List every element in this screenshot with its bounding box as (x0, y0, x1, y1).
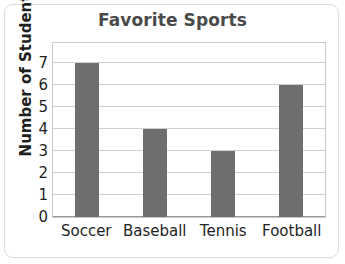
y-tick-label: 1 (26, 188, 48, 203)
bar (279, 85, 303, 217)
x-axis-tick-labels: SoccerBaseballTennisFootball (52, 222, 326, 240)
bar-slot (121, 43, 189, 217)
x-tick-label: Baseball (121, 222, 190, 240)
x-tick-label: Football (258, 222, 327, 240)
plot-area (52, 42, 326, 218)
bar-series (53, 43, 325, 217)
bar (211, 151, 235, 217)
y-tick-label: 4 (26, 122, 48, 137)
bar-slot (257, 43, 325, 217)
y-axis-tick-labels: 01234567 (24, 42, 48, 218)
x-tick-label: Tennis (189, 222, 258, 240)
x-tick-label: Soccer (52, 222, 121, 240)
y-tick-label: 6 (26, 78, 48, 93)
bar-slot (53, 43, 121, 217)
y-tick-label: 3 (26, 144, 48, 159)
bar (75, 63, 99, 217)
y-tick-label: 7 (26, 56, 48, 71)
y-tick-label: 5 (26, 100, 48, 115)
y-tick-label: 0 (26, 210, 48, 225)
chart-figure: Favorite Sports Number of Students 01234… (0, 0, 345, 264)
chart-title: Favorite Sports (0, 10, 345, 30)
y-tick-label: 2 (26, 166, 48, 181)
bar (143, 129, 167, 217)
bar-slot (189, 43, 257, 217)
